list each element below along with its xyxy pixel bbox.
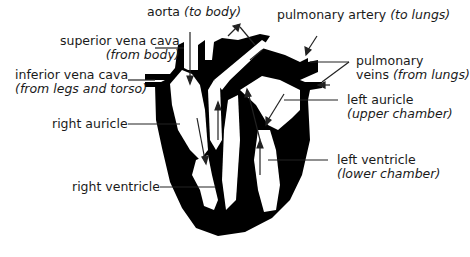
label-left-auricle: left auricle (upper chamber) — [347, 93, 453, 121]
label-pulmonary-artery: pulmonary artery (to lungs) — [277, 8, 450, 22]
label-superior-vena-cava: superior vena cava (from body) — [60, 34, 180, 62]
label-right-ventricle: right ventricle — [72, 180, 160, 194]
label-left-ventricle: left ventricle (lower chamber) — [337, 153, 440, 181]
label-right-auricle: right auricle — [52, 117, 128, 131]
label-aorta: aorta (to body) — [147, 5, 241, 19]
label-inferior-vena-cava: inferior vena cava (from legs and torso) — [15, 68, 147, 96]
label-pulmonary-veins: pulmonary veins (from lungs) — [356, 54, 470, 82]
